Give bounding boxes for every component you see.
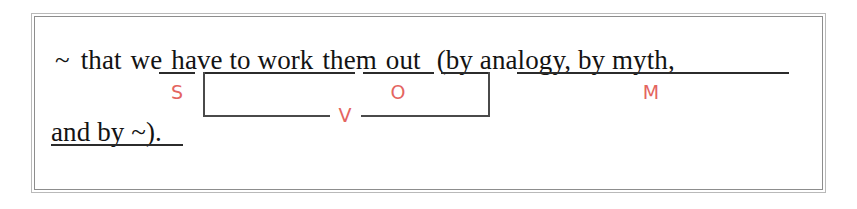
conjunction-that: that [70,47,122,74]
diagram-canvas: ~thatwehave to workthemout(by analogy, b… [35,17,822,189]
verb-phrase-part-2: out [377,47,421,74]
v-bracket-bottom-left [203,115,330,117]
label-object: O [385,83,411,102]
verb-phrase-part-1: have to work [162,47,313,74]
underline-object [363,72,434,74]
underline-modifier-continued [51,144,183,146]
diagram-frame-inner: ~thatwehave to workthemout(by analogy, b… [34,16,823,190]
object-phrase: them [313,47,376,74]
subject-phrase: we [122,47,163,74]
underline-subject [159,72,195,74]
label-modifier: M [636,83,666,102]
placeholder-tilde-start: ~ [55,47,70,74]
label-subject: S [165,83,189,102]
underline-modifier [517,72,789,74]
label-verb: V [332,106,358,125]
sentence-line-1: ~thatwehave to workthemout(by analogy, b… [55,47,675,74]
underline-verb-part-2 [441,72,490,74]
sentence-line-2: and by ~). [51,119,162,146]
v-bracket-right-leg [488,72,490,117]
closing-paren-period: ). [146,119,162,146]
modifier-phrase-continued: and by ~ [51,119,146,146]
modifier-phrase: (by analogy, by myth, [421,47,675,74]
diagram-frame: ~thatwehave to workthemout(by analogy, b… [31,13,826,193]
underline-verb-part-1 [203,72,355,74]
v-bracket-left-leg [203,72,205,117]
v-bracket-bottom-right [361,115,490,117]
